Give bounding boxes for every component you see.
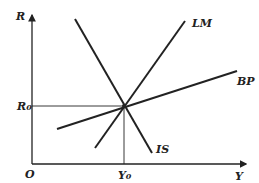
equilibrium-point [122, 104, 126, 108]
bp-curve [57, 71, 237, 129]
y0-label: Y0 [118, 169, 132, 182]
lm-curve [95, 21, 185, 148]
x-axis-label: Y [235, 170, 244, 183]
bp-label: BP [236, 75, 255, 88]
origin-label: O [25, 168, 35, 181]
lm-label: LM [191, 17, 213, 30]
is-lm-bp-diagram: R Y O LM BP IS R0 Y0 [0, 0, 259, 183]
y-axis-label: R [15, 10, 25, 23]
r0-label: R0 [16, 100, 32, 113]
is-label: IS [155, 143, 169, 156]
is-curve [75, 19, 152, 153]
